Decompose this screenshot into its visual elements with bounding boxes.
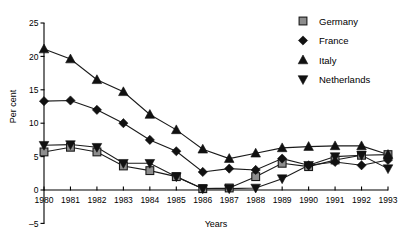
x-tick-label: 1985	[167, 195, 186, 205]
data-point	[39, 44, 49, 53]
x-tick-label: 1984	[140, 195, 159, 205]
y-axis-label: Per cent	[8, 89, 18, 123]
data-point	[66, 54, 76, 63]
legend-marker-square	[299, 17, 307, 25]
legend-marker-diamond	[298, 36, 307, 45]
legend-label: Germany	[319, 16, 358, 27]
x-axis-label: Years	[205, 219, 228, 229]
y-tick-label: 20	[29, 52, 39, 62]
x-tick-label: 1986	[193, 195, 212, 205]
x-tick-label: 1987	[220, 195, 239, 205]
x-tick-label: 1992	[352, 195, 371, 205]
data-point	[383, 165, 393, 174]
data-point	[357, 141, 367, 150]
markers-germany	[40, 143, 392, 192]
x-tick-label: 1990	[299, 195, 318, 205]
data-point	[92, 105, 101, 114]
data-point	[39, 97, 48, 106]
data-point	[198, 144, 208, 153]
data-point	[357, 161, 366, 170]
y-tick-label: –5	[29, 219, 39, 229]
x-tick-label: 1993	[379, 195, 398, 205]
y-tick-label: 15	[29, 85, 39, 95]
y-tick-label: 25	[29, 18, 39, 28]
data-point	[145, 135, 154, 144]
legend-layer: GermanyFranceItalyNetherlands	[298, 16, 370, 86]
data-point	[92, 75, 102, 84]
data-point	[172, 125, 182, 134]
y-tick-label: 0	[34, 185, 39, 195]
x-tick-label: 1989	[273, 195, 292, 205]
legend-item-germany: Germany	[299, 16, 358, 27]
chart-root: –505101520251980198119821983198419851986…	[0, 0, 403, 244]
data-point	[330, 141, 340, 150]
data-point	[198, 167, 207, 176]
data-point	[145, 110, 155, 119]
x-tick-label: 1982	[87, 195, 106, 205]
legend-marker-triangle-down	[298, 76, 308, 85]
markers-netherlands	[39, 141, 393, 194]
markers-italy	[39, 44, 393, 162]
legend-item-italy: Italy	[298, 55, 336, 66]
x-tick-label: 1980	[35, 195, 54, 205]
x-tick-label: 1983	[114, 195, 133, 205]
data-point	[172, 147, 181, 156]
legend-label: France	[319, 35, 349, 46]
line-chart: –505101520251980198119821983198419851986…	[0, 0, 403, 244]
x-tick-label: 1988	[246, 195, 265, 205]
y-tick-label: 5	[34, 152, 39, 162]
data-point	[119, 87, 129, 96]
data-point	[119, 119, 128, 128]
series-layer	[39, 44, 393, 194]
data-point	[66, 96, 75, 105]
labels-layer: Per centYears	[8, 89, 228, 229]
x-tick-label: 1991	[326, 195, 345, 205]
legend-marker-triangle-up	[298, 55, 308, 64]
data-point	[225, 164, 234, 173]
legend-item-netherlands: Netherlands	[298, 74, 370, 85]
x-tick-label: 1981	[61, 195, 80, 205]
data-point	[277, 175, 287, 184]
axes-layer: –505101520251980198119821983198419851986…	[29, 18, 398, 228]
legend-label: Italy	[319, 55, 337, 66]
y-tick-label: 10	[29, 118, 39, 128]
legend-item-france: France	[298, 35, 348, 46]
legend-label: Netherlands	[319, 74, 370, 85]
